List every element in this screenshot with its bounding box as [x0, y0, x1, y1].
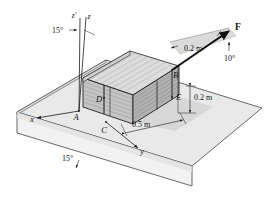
point-marker-e [171, 96, 173, 98]
label-point-d: D [95, 94, 103, 104]
label-point-e: E [175, 92, 182, 102]
point-marker-c [105, 121, 107, 123]
dim-angle15-ramp-leader [76, 160, 79, 168]
label-point-a: A [72, 112, 79, 122]
label-angle-force-elevation: 10° [224, 54, 235, 63]
label-dim-edge-height: 0.2 m [194, 93, 213, 102]
label-point-b: B [173, 70, 178, 80]
figure-canvas: 15° z' z x y F 0.2 m 10° 0.2 m 0.5 m 15°… [0, 0, 278, 197]
label-axis-x: x [29, 115, 34, 124]
statics-figure: 15° z' z x y F 0.2 m 10° 0.2 m 0.5 m 15°… [0, 0, 278, 197]
label-angle-axis-tilt: 15° [52, 26, 63, 35]
label-force-f: F [235, 22, 241, 32]
label-dim-force-offset: 0.2 m [184, 44, 203, 53]
dim-angle15-axis-tick [84, 30, 95, 35]
label-dim-base-width: 0.5 m [132, 120, 151, 129]
label-axis-z: z [86, 12, 91, 21]
point-marker-d [103, 97, 105, 99]
label-axis-y: y [139, 147, 144, 156]
label-axis-z-prime: z' [71, 11, 77, 20]
label-angle-ramp-incline: 15° [62, 154, 73, 163]
label-point-c: C [101, 125, 107, 135]
